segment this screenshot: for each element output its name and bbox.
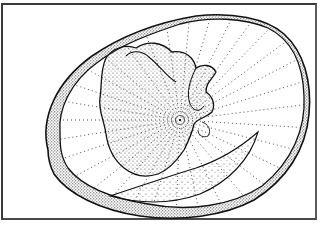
specimen-illustration: [0, 0, 321, 225]
